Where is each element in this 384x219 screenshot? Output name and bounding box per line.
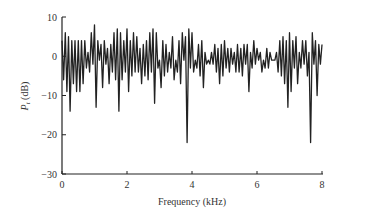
chart: 100−10−20−30 02468 Frequency (kHz) Pt (d… [0,0,384,219]
y-axis-title-main: P [19,104,30,111]
y-tick-label: −20 [41,129,57,140]
x-tick-label: 4 [190,179,195,190]
y-axis-title: Pt (dB) [19,82,32,112]
x-axis-title: Frequency (kHz) [158,196,226,208]
series-line-pt [62,25,322,143]
y-axis-title-unit: (dB) [19,82,31,103]
y-tick-label: −30 [41,169,57,180]
x-tick-label: 6 [255,179,260,190]
y-tick-label: 10 [47,12,57,23]
x-tick-label: 0 [60,179,65,190]
y-tick-label: 0 [52,51,57,62]
x-tick-label: 8 [320,179,325,190]
plot-area: 100−10−20−30 02468 [41,12,324,191]
y-tick-label: −10 [41,90,57,101]
x-tick-label: 2 [125,179,130,190]
